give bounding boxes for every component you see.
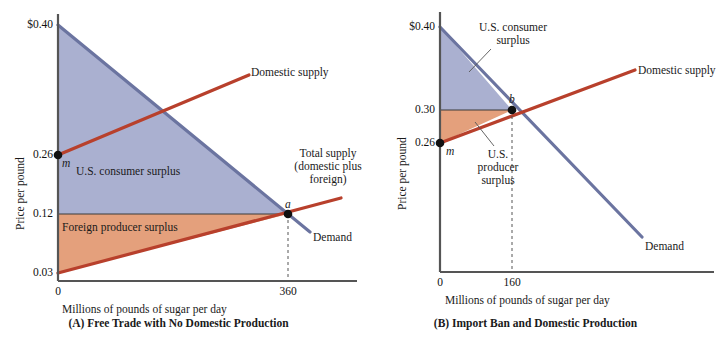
x-axis-title-b: Millions of pounds of sugar per day [445,294,610,306]
y-tick-a-0: $0.40 [0,18,53,30]
total-supply-label-a-line2: (domestic plus [288,160,368,173]
y-tick-b-1: 0.30 [382,103,435,115]
demand-label-b: Demand [645,240,684,253]
point-m-label-b: m [446,145,454,157]
total-supply-label-a-line3: foreign) [288,173,368,186]
point-m-marker-a [54,151,63,160]
y-axis-title-a: Price per pound [14,157,26,230]
consumer-surplus-label-b-line1: U.S. consumer [463,21,563,34]
panel-a-caption: (A) Free Trade with No Domestic Producti… [0,317,357,329]
x-tick-a-1: 360 [268,285,308,297]
producer-surplus-label-b-line1: U.S. [463,148,533,161]
point-a-marker-a [284,210,293,219]
y-tick-b-2: 0.26 [382,136,435,148]
panel-b-caption: (B) Import Ban and Domestic Production [357,317,714,329]
point-b-label-b: b [509,93,515,105]
domestic-supply-label-a: Domestic supply [251,66,329,79]
panel-b-import-ban: $0.40 0.30 0.26 0 160 Price per pound Mi… [357,0,714,348]
consumer-surplus-label-b-line2: surplus [463,34,563,47]
y-axis-title-b: Price per pound [396,137,408,210]
producer-surplus-label-b-line2: producer [463,161,533,174]
x-axis-title-a: Millions of pounds of sugar per day [62,303,227,315]
y-tick-a-1: 0.26 [0,148,53,160]
y-tick-b-0: $0.40 [382,20,435,32]
x-tick-a-0: 0 [48,285,68,297]
total-supply-label-a-line1: Total supply [288,147,368,160]
x-tick-b-0: 0 [430,276,450,288]
point-m-marker-b [436,139,445,148]
domestic-supply-label-b: Domestic supply [638,64,716,77]
consumer-surplus-label-a: U.S. consumer surplus [76,165,180,178]
panel-a-free-trade: $0.40 0.26 0.12 0.03 0 360 Price per pou… [0,0,357,348]
point-m-label-a: m [62,157,70,169]
point-b-marker-b [508,106,517,115]
producer-surplus-label-a: Foreign producer surplus [62,221,178,234]
y-tick-a-3: 0.03 [0,266,53,278]
x-tick-b-1: 160 [492,276,532,288]
y-tick-a-2: 0.12 [0,207,53,219]
demand-label-a: Demand [313,231,352,244]
point-a-label-a: a [285,198,291,210]
producer-surplus-label-b-line3: surplus [463,174,533,187]
